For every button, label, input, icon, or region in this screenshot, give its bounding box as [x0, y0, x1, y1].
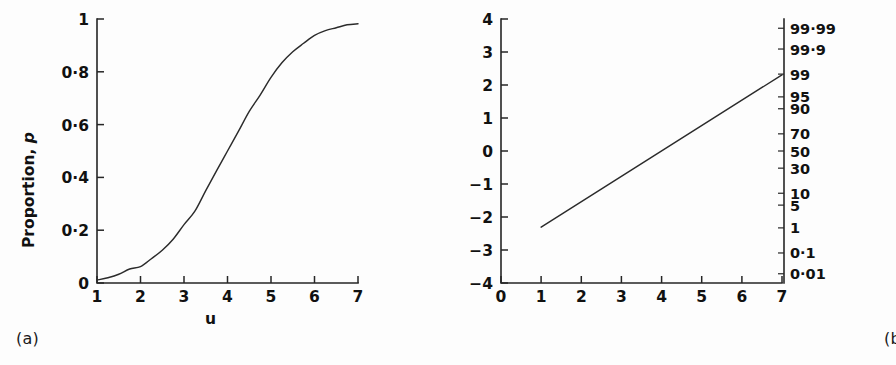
- x-tick-label: 2: [135, 288, 146, 306]
- panel-a-y-ticks: [97, 19, 104, 283]
- y-tick-label: 0·8: [62, 64, 89, 82]
- percentage-tick-label: 99·99: [790, 21, 836, 37]
- x-tick-label: 7: [777, 288, 788, 306]
- panel-a-x-tick-labels: 1 2 3 4 5 6 7: [92, 288, 364, 306]
- y-tick-label: 2: [482, 77, 493, 95]
- y-tick-label: 0·2: [62, 222, 89, 240]
- x-tick-label: 6: [737, 288, 748, 306]
- percentage-tick-label: 30: [790, 161, 810, 177]
- panel-b: NED of p Percentage, 100 p u (b): [448, 0, 896, 365]
- x-tick-label: 0: [496, 288, 507, 306]
- panel-b-axes: [501, 19, 784, 283]
- panel-a-x-ticks: [97, 276, 358, 283]
- x-tick-label: 5: [696, 288, 707, 306]
- panel-b-y-ticks: [501, 19, 508, 283]
- panel-a: Proportion, p u (a): [0, 0, 448, 365]
- y-tick-label: 4: [482, 11, 493, 29]
- y-tick-label: 1: [78, 11, 89, 29]
- panel-b-percentage-ticks: 99·9999·999959070503010510·10·01: [778, 21, 836, 283]
- x-tick-label: 7: [353, 288, 364, 306]
- x-tick-label: 4: [222, 288, 233, 306]
- panel-b-x-ticks: [501, 276, 782, 283]
- percentage-tick-label: 90: [790, 101, 810, 117]
- figure-container: Proportion, p u (a): [0, 0, 896, 365]
- y-tick-label: 0: [482, 143, 493, 161]
- percentage-tick-label: 50: [790, 144, 810, 160]
- percentage-tick-label: 0·01: [790, 266, 826, 282]
- y-tick-label: −4: [469, 275, 493, 293]
- y-tick-label: −3: [469, 242, 493, 260]
- y-tick-label: 3: [482, 44, 493, 62]
- percentage-tick-label: 70: [790, 126, 810, 142]
- x-tick-label: 3: [179, 288, 190, 306]
- y-tick-label: 0·6: [62, 117, 89, 135]
- y-tick-label: 0·4: [62, 169, 90, 187]
- probit-line: [541, 75, 782, 227]
- percentage-tick-label: 99: [790, 67, 810, 83]
- x-tick-label: 2: [576, 288, 587, 306]
- panel-a-y-tick-labels: 1 0·8 0·6 0·4 0·2 0: [62, 11, 90, 293]
- y-tick-label: 0: [78, 275, 89, 293]
- y-tick-label: −2: [469, 209, 493, 227]
- x-tick-label: 5: [266, 288, 277, 306]
- panel-b-x-tick-labels: 0 1 2 3 4 5 6 7: [496, 288, 788, 306]
- x-tick-label: 4: [656, 288, 667, 306]
- percentage-tick-label: 1: [790, 220, 800, 236]
- percentage-tick-label: 99·9: [790, 42, 826, 58]
- x-tick-label: 1: [92, 288, 103, 306]
- panel-b-y-tick-labels: 4 3 2 1 0 −1 −2 −3 −4: [469, 11, 493, 293]
- x-tick-label: 6: [309, 288, 320, 306]
- panel-a-plot: 1 0·8 0·6 0·4 0·2 0 1 2 3 4 5 6 7: [0, 0, 448, 365]
- x-tick-label: 1: [536, 288, 547, 306]
- percentage-tick-label: 0·1: [790, 245, 816, 261]
- y-tick-label: −1: [469, 176, 493, 194]
- panel-b-plot: 4 3 2 1 0 −1 −2 −3 −4 0 1 2 3 4 5 6 7: [448, 0, 896, 365]
- y-tick-label: 1: [482, 110, 493, 128]
- sigmoid-curve: [97, 24, 358, 280]
- percentage-tick-label: 5: [790, 198, 800, 214]
- x-tick-label: 3: [616, 288, 627, 306]
